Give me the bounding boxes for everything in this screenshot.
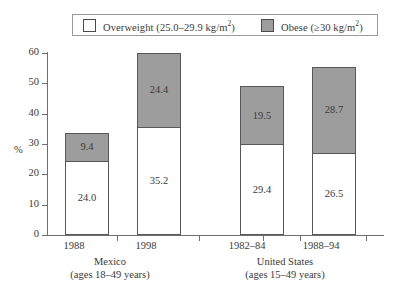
y-tick-label-20: 20 [29,167,40,179]
bar-value-obese: 9.4 [80,141,93,153]
y-tick-label-40: 40 [29,107,40,119]
bar-value-obese: 28.7 [325,104,343,116]
plot-area: 0 10 20 30 40 50 60 9.4 [47,52,384,236]
x-tick-mexico-mid [117,236,118,241]
bar-segment-overweight[interactable]: 24.0 [65,162,109,235]
bar-value-obese: 19.5 [253,110,271,122]
bar-segment-overweight[interactable]: 26.5 [312,154,356,235]
x-label-1988-94: 1988–94 [292,240,350,252]
y-tick-50: 50 [42,83,47,84]
y-tick-label-0: 0 [34,228,39,240]
x-label-1982-84: 1982–84 [218,240,276,252]
bar-value-overweight: 29.4 [253,184,271,196]
legend-label-obese: Obese (≥30 kg/m2) [281,18,363,33]
group-label-mexico: Mexico (ages 18–49 years) [50,255,170,281]
x-label-1988: 1988 [48,240,100,252]
y-tick-40: 40 [42,114,47,115]
y-tick-label-10: 10 [29,198,40,210]
bar-1988-mexico[interactable]: 9.4 24.0 [65,133,109,235]
group-sub-mexico: (ages 18–49 years) [50,268,170,281]
bar-1982-84-us[interactable]: 19.5 29.4 [240,86,284,235]
x-tick-us-end [366,236,367,241]
y-axis-title: % [14,144,23,156]
y-tick-label-60: 60 [29,46,40,58]
y-tick-label-50: 50 [29,76,40,88]
y-tick-10: 10 [42,205,47,206]
bar-value-obese: 24.4 [150,84,168,96]
bar-1988-94-us[interactable]: 28.7 26.5 [312,67,356,235]
bar-segment-overweight[interactable]: 35.2 [137,128,181,235]
bar-value-overweight: 35.2 [150,175,168,187]
group-name-united-states: United States [222,255,348,268]
bar-segment-obese[interactable]: 19.5 [240,86,284,146]
chart-page: Overweight (25.0–29.9 kg/m2) Obese (≥30 … [0,0,397,300]
group-label-united-states: United States (ages 15–49 years) [222,255,348,281]
bar-segment-obese[interactable]: 9.4 [65,133,109,162]
chart-legend: Overweight (25.0–29.9 kg/m2) Obese (≥30 … [72,14,378,36]
legend-label-overweight: Overweight (25.0–29.9 kg/m2) [103,18,235,33]
x-tick-mexico-end [199,236,200,241]
group-name-mexico: Mexico [50,255,170,268]
y-tick-20: 20 [42,174,47,175]
y-axis-line [47,52,48,236]
legend-item-overweight[interactable]: Overweight (25.0–29.9 kg/m2) [83,18,235,33]
bar-segment-obese[interactable]: 28.7 [312,67,356,155]
y-tick-30: 30 [42,144,47,145]
bar-value-overweight: 24.0 [78,192,96,204]
y-tick-label-30: 30 [29,137,40,149]
legend-item-obese[interactable]: Obese (≥30 kg/m2) [261,18,363,33]
x-axis-line [47,235,384,236]
y-tick-0: 0 [42,235,47,236]
bar-1998-mexico[interactable]: 24.4 35.2 [137,53,181,235]
bar-segment-overweight[interactable]: 29.4 [240,145,284,235]
bar-value-overweight: 26.5 [325,188,343,200]
x-label-1998: 1998 [120,240,172,252]
legend-swatch-overweight-icon [83,19,96,32]
bar-segment-obese[interactable]: 24.4 [137,53,181,127]
group-sub-united-states: (ages 15–49 years) [222,268,348,281]
y-tick-60: 60 [42,53,47,54]
legend-swatch-obese-icon [261,19,274,32]
